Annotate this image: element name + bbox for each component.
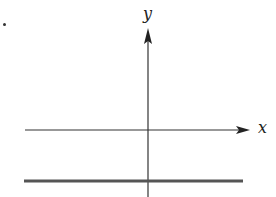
diagram-canvas: y x — [0, 0, 276, 197]
axes-svg — [0, 0, 276, 197]
y-axis-label: y — [143, 6, 152, 22]
x-axis-label: x — [258, 120, 267, 136]
